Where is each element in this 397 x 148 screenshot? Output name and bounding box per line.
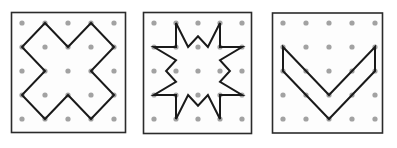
peg-dot	[303, 44, 308, 49]
peg-dot	[349, 116, 354, 121]
peg-dot	[303, 20, 308, 25]
peg-dot	[280, 116, 285, 121]
geoboard-figure	[0, 0, 397, 148]
peg-dot	[372, 92, 377, 97]
peg-dot	[326, 68, 331, 73]
peg-dot	[303, 116, 308, 121]
peg-dot	[372, 20, 377, 25]
peg-dot	[280, 92, 285, 97]
peg-dot	[349, 20, 354, 25]
peg-dot	[280, 20, 285, 25]
peg-dot	[326, 20, 331, 25]
peg-dot	[349, 44, 354, 49]
peg-dot	[372, 116, 377, 121]
peg-dot	[326, 44, 331, 49]
geoboard-panel-chevron	[0, 0, 397, 148]
